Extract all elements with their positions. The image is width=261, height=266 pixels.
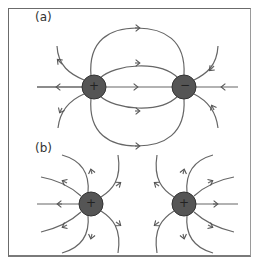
charge-b-left-symbol: +	[86, 196, 96, 210]
field-lines-diagram	[0, 0, 261, 266]
charge-a-positive-symbol: +	[89, 79, 99, 93]
charge-b-right-symbol: +	[179, 196, 189, 210]
panel-a-field-lines	[37, 28, 238, 146]
charge-a-negative-symbol: −	[180, 78, 190, 92]
panel-b-field-lines	[37, 155, 238, 253]
